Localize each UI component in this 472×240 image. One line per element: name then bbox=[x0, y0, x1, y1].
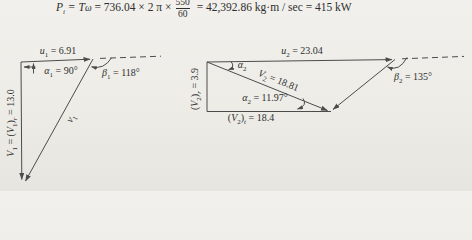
V1-value: = 13.0 bbox=[5, 89, 16, 117]
equation-result: = 42,392.86 kg·m / sec = 415 kW bbox=[194, 1, 352, 13]
V2t-value: = 18.4 bbox=[246, 111, 274, 122]
V2r-label: (V2)r = 3.9 bbox=[190, 68, 203, 110]
V1-radial-symbol: V bbox=[5, 127, 16, 133]
V1-subscript: 1 bbox=[11, 147, 19, 151]
power-equation: Pi = Tω = 736.04 × 2 π ×55060 = 42,392.8… bbox=[56, 0, 352, 18]
d1-u1-vector bbox=[21, 59, 90, 62]
d1-wheel-tangent-dashed-line bbox=[100, 56, 161, 58]
u2-value: = 23.04 bbox=[290, 44, 323, 55]
alpha2-value: = 11.97° bbox=[251, 92, 288, 103]
equation-torque-term: = T bbox=[65, 1, 85, 13]
V1-label: V1 = (V1)r = 13.0 bbox=[6, 89, 19, 156]
alpha2-arc-label: α2 bbox=[238, 60, 247, 73]
alpha2-arc-subscript: 2 bbox=[243, 65, 247, 73]
fraction-numerator: 550 bbox=[176, 0, 190, 7]
V2r-close-paren: ) bbox=[189, 94, 200, 97]
equation-omega: ω bbox=[85, 3, 92, 13]
d2-v2-vector bbox=[333, 60, 395, 110]
V2t-label: (V2)t = 18.4 bbox=[228, 112, 274, 125]
velocity-diagrams-canvas bbox=[0, 0, 472, 191]
u2-label: u2 = 23.04 bbox=[281, 45, 323, 58]
alpha2-value-label: α2 = 11.97° bbox=[242, 93, 288, 106]
alpha1-label: α1 = 90° bbox=[44, 65, 77, 78]
d1-V1-vector bbox=[21, 62, 22, 180]
equation-middle: = 736.04 × 2 π × bbox=[92, 1, 172, 13]
V1-close-paren: ) bbox=[5, 120, 16, 123]
fraction-denominator: 60 bbox=[178, 10, 188, 19]
u1-label: u1 = 6.91 bbox=[40, 45, 77, 58]
beta1-label: β1 = 118° bbox=[102, 68, 140, 81]
beta2-label: β2 = 135° bbox=[394, 72, 432, 85]
V2r-value: = 3.9 bbox=[189, 68, 200, 91]
beta1-value: = 118° bbox=[111, 67, 140, 78]
alpha1-value: = 90° bbox=[53, 64, 78, 75]
V1-equals-paren: = ( bbox=[5, 133, 16, 147]
V1-radial-subscript: 1 bbox=[11, 124, 19, 128]
V2r-symbol: V bbox=[189, 101, 200, 107]
V1-symbol: V bbox=[5, 151, 16, 157]
rpm-fraction: 55060 bbox=[176, 0, 190, 19]
V2r-open-paren: ( bbox=[189, 107, 200, 110]
d2-alpha2-angle-arc-top bbox=[229, 62, 233, 70]
V2r-subscript: 2 bbox=[195, 97, 203, 101]
beta2-value: = 135° bbox=[402, 71, 432, 82]
V2r-component-subscript: r bbox=[195, 91, 203, 94]
equation-P: P bbox=[56, 1, 63, 13]
d2-u2-vector bbox=[207, 60, 392, 62]
V1-radial-component-subscript: r bbox=[11, 117, 19, 120]
u1-value: = 6.91 bbox=[48, 44, 76, 55]
d2-wheel-tangent-dashed-line bbox=[402, 56, 464, 58]
